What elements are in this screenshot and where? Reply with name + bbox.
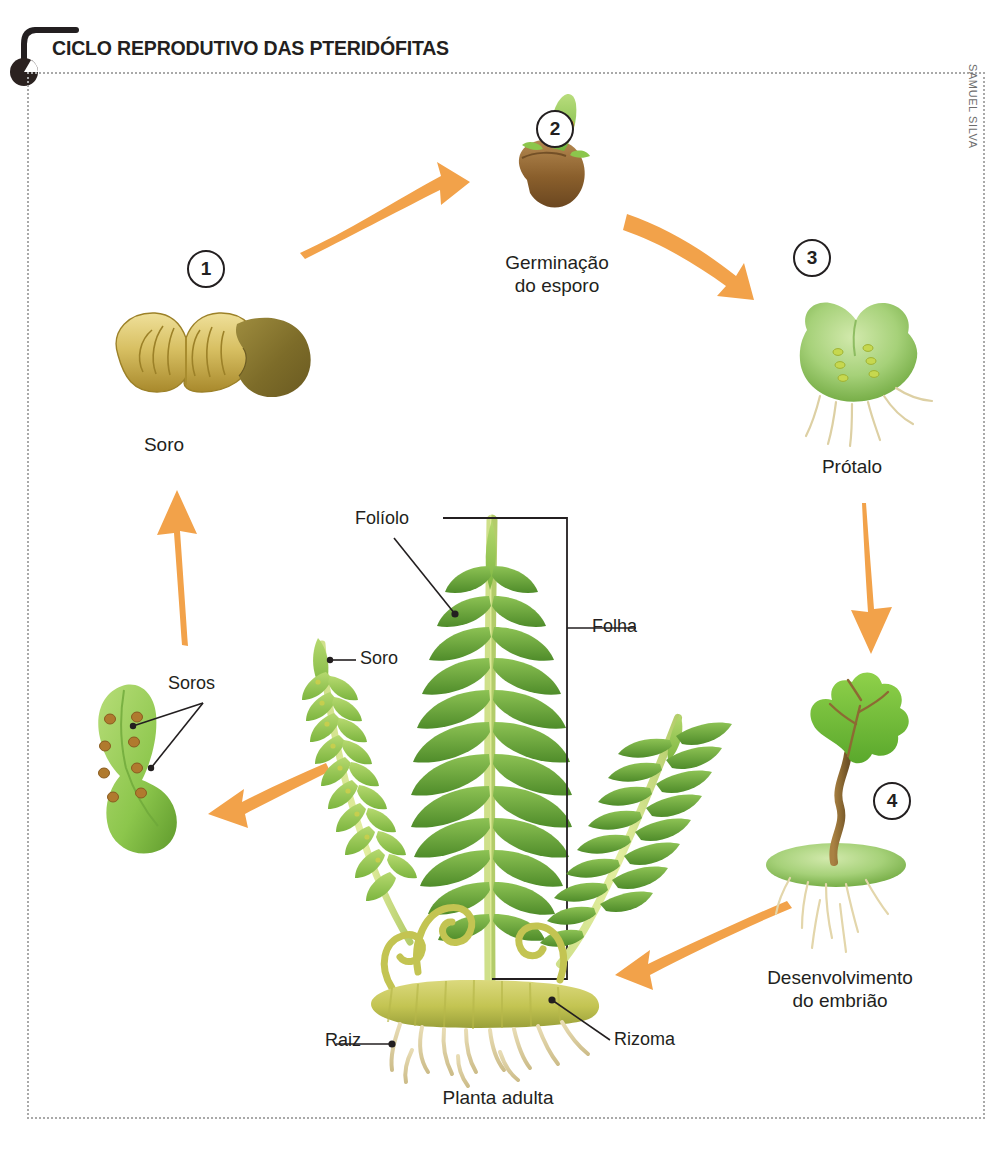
step-badge-4: 4 <box>873 782 911 820</box>
diagram-page: CICLO REPRODUTIVO DAS PTERIDÓFITAS SAMUE… <box>0 0 1006 1149</box>
step-badge-1: 1 <box>187 250 225 288</box>
page-title: CICLO REPRODUTIVO DAS PTERIDÓFITAS <box>52 36 449 60</box>
label-raiz: Raiz <box>325 1030 361 1051</box>
credit-line: SAMUEL SILVA <box>967 64 979 149</box>
step-badge-2: 2 <box>536 110 574 148</box>
caption-prothallus: Prótalo <box>782 455 922 478</box>
caption-spore-germination: Germinação do esporo <box>472 251 642 297</box>
caption-embryo-development: Desenvolvimento do embrião <box>740 966 940 1012</box>
label-soros: Soros <box>168 673 215 694</box>
caption-adult-plant: Planta adulta <box>418 1086 578 1109</box>
step-badge-3: 3 <box>793 239 831 277</box>
label-foliolo: Folíolo <box>355 508 409 529</box>
label-rizoma: Rizoma <box>614 1029 675 1050</box>
label-soro: Soro <box>360 648 398 669</box>
caption-sorus: Soro <box>104 433 224 456</box>
label-folha: Folha <box>592 616 637 637</box>
diagram-frame <box>27 72 985 1119</box>
